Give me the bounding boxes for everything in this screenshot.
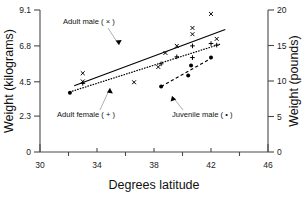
- datapoint-adult-male-0: [81, 71, 85, 75]
- y2-ticklabel-2: 10: [277, 76, 287, 86]
- annotation-juvenile-male-label: Juvenile male ( • ): [172, 110, 233, 119]
- annotation-adult-female: Adult female ( + ): [57, 88, 116, 119]
- y-axis-left: [34, 10, 40, 152]
- x-ticklabel-1: 34: [92, 160, 102, 170]
- annotation-adult-female-label: Adult female ( + ): [57, 110, 116, 119]
- y-ticklabel-4: 9.1: [19, 5, 31, 15]
- datapoint-juvenile-male-0: [68, 91, 72, 95]
- x-ticklabel-2: 38: [149, 160, 159, 170]
- datapoint-adult-female-4: [190, 55, 195, 60]
- x-ticklabel-0: 30: [35, 160, 45, 170]
- trendline-adult-female: [70, 44, 220, 92]
- y-axis-right: [268, 10, 274, 152]
- y-ticklabel-3: 6.8: [19, 41, 31, 51]
- y-axis-right-ticklabels: 0 5 10 15 20: [277, 5, 287, 157]
- datapoint-juvenile-male-3: [189, 63, 193, 67]
- datapoint-adult-male-8: [209, 12, 213, 16]
- y-ticklabel-0: 0: [26, 147, 31, 157]
- datapoint-adult-male-6: [191, 26, 195, 30]
- chart-canvas: 30 34 38 42 46 Degrees latitude 0 2.3 4.…: [0, 0, 304, 202]
- y-axis-left-ticklabels: 0 2.3 4.5 6.8 9.1: [19, 5, 31, 157]
- annotation-adult-male-label: Adult male ( × ): [63, 17, 115, 26]
- datapoint-juvenile-male-2: [186, 74, 190, 78]
- y-axis-title: Weight (kilograms): [2, 29, 16, 133]
- annotation-adult-male: Adult male ( × ): [63, 17, 122, 45]
- scatter-plot-figure: 30 34 38 42 46 Degrees latitude 0 2.3 4.…: [0, 0, 304, 202]
- y2-ticklabel-1: 5: [277, 112, 282, 122]
- datapoint-juvenile-male-1: [159, 84, 163, 88]
- datapoint-juvenile-male-4: [209, 56, 213, 60]
- datapoint-adult-female-5: [209, 41, 214, 46]
- y2-ticklabel-3: 15: [277, 41, 287, 51]
- datapoint-adult-male-2: [132, 80, 136, 84]
- x-ticklabel-3: 42: [206, 160, 216, 170]
- datapoint-adult-female-3: [190, 44, 195, 49]
- annotation-juvenile-male: Juvenile male ( • ): [171, 96, 233, 119]
- x-ticklabel-4: 46: [263, 160, 273, 170]
- datapoint-adult-male-3: [156, 65, 160, 69]
- x-axis: [40, 144, 268, 156]
- x-axis-ticklabels: 30 34 38 42 46: [35, 160, 273, 170]
- y-ticklabel-1: 2.3: [19, 111, 31, 121]
- x-axis-title: Degrees latitude: [108, 178, 199, 192]
- y2-ticklabel-4: 20: [277, 5, 287, 15]
- y2-axis-title: Weight (pounds): [287, 35, 301, 127]
- y-ticklabel-2: 4.5: [19, 77, 31, 87]
- trendlines-group: [70, 30, 225, 92]
- trendline-adult-male: [74, 30, 225, 86]
- datapoint-adult-male-7: [191, 32, 195, 36]
- trendline-juvenile-male: [161, 58, 212, 87]
- datapoint-adult-female-6: [214, 43, 219, 48]
- y2-ticklabel-0: 0: [277, 147, 282, 157]
- datapoint-adult-male-9: [215, 37, 219, 41]
